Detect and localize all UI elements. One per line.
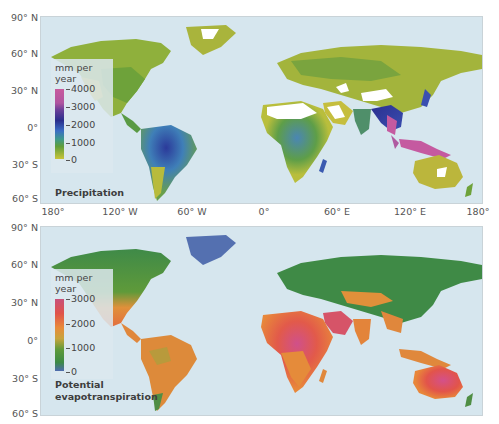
lat-label-60n-bottom: 60° N bbox=[0, 259, 38, 270]
legend-unit-line1: mm per bbox=[55, 272, 109, 283]
lat-label-60s-bottom: 60° S bbox=[0, 408, 38, 419]
lon-label-60w: 60° W bbox=[177, 206, 206, 217]
legend-tick-2000: 2000 bbox=[66, 319, 95, 329]
evapotranspiration-title-line2: evapotranspiration bbox=[55, 391, 158, 403]
precipitation-map-panel: mm per year 4000 3000 2000 1000 0 Precip… bbox=[40, 16, 483, 204]
lat-label-30s: 30° S bbox=[0, 159, 38, 170]
precipitation-legend: mm per year 4000 3000 2000 1000 0 bbox=[51, 59, 113, 173]
evapotranspiration-legend: mm per year 3000 2000 1000 0 bbox=[51, 269, 113, 379]
precipitation-title: Precipitation bbox=[55, 187, 124, 199]
precipitation-color-bar bbox=[55, 89, 64, 159]
lat-label-60s: 60° S bbox=[0, 193, 38, 204]
lat-label-60n: 60° N bbox=[0, 48, 38, 59]
legend-tick-3000: 3000 bbox=[66, 102, 95, 112]
lon-label-60e: 60° E bbox=[324, 206, 350, 217]
lon-label-0: 0° bbox=[259, 206, 270, 217]
lon-label-180w: 180° bbox=[42, 206, 65, 217]
lat-label-0: 0° bbox=[0, 122, 38, 133]
evapotranspiration-title-line1: Potential bbox=[55, 379, 104, 391]
legend-tick-2000: 2000 bbox=[66, 120, 95, 130]
evapotranspiration-map-panel: mm per year 3000 2000 1000 0 Potential e… bbox=[40, 226, 483, 416]
lat-label-90n: 90° N bbox=[0, 12, 38, 23]
lon-label-120e: 120° E bbox=[394, 206, 426, 217]
evapotranspiration-color-bar bbox=[55, 299, 64, 371]
lat-label-30n: 30° N bbox=[0, 85, 38, 96]
lat-label-0-bottom: 0° bbox=[0, 335, 38, 346]
legend-tick-0: 0 bbox=[66, 155, 77, 165]
legend-tick-1000: 1000 bbox=[66, 138, 95, 148]
legend-tick-1000: 1000 bbox=[66, 343, 95, 353]
lat-label-30n-bottom: 30° N bbox=[0, 297, 38, 308]
lat-label-90n-bottom: 90° N bbox=[0, 222, 38, 233]
lat-label-30s-bottom: 30° S bbox=[0, 373, 38, 384]
legend-tick-4000: 4000 bbox=[66, 84, 95, 94]
legend-tick-0: 0 bbox=[66, 367, 77, 377]
legend-tick-3000: 3000 bbox=[66, 294, 95, 304]
lon-label-180e: 180° bbox=[467, 206, 490, 217]
lon-label-120w: 120° W bbox=[102, 206, 137, 217]
legend-unit-line1: mm per bbox=[55, 62, 109, 73]
